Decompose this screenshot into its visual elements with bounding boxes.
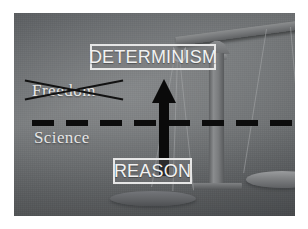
slide-root: Freedom Science DETERMINISM REASON [0, 0, 308, 229]
scale-foot-stem [211, 188, 222, 216]
science-label: Science [34, 128, 90, 148]
scale-string-right-a [243, 29, 267, 173]
scale-beam [175, 19, 295, 46]
reason-label: REASON [113, 158, 192, 184]
scale-pan-right [246, 171, 295, 188]
photo-canvas: Freedom Science DETERMINISM REASON [14, 13, 295, 216]
freedom-strikeout-group: Freedom [26, 77, 122, 103]
scale-pan-left [110, 191, 196, 206]
determinism-label: DETERMINISM [90, 44, 216, 70]
scale-string-right-b [290, 27, 295, 175]
